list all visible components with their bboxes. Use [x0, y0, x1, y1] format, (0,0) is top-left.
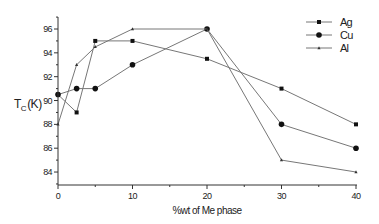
x-tick-label: 30: [277, 191, 286, 201]
y-axis-title: TC(K): [14, 97, 42, 113]
series-line-ag: [58, 41, 356, 125]
legend-marker: [317, 20, 321, 24]
data-point: [130, 62, 136, 68]
y-tick-label: 94: [43, 48, 52, 58]
y-tick-label: 96: [43, 24, 52, 34]
x-tick-label: 20: [203, 191, 212, 201]
series-line-cu: [58, 29, 356, 148]
data-point: [279, 122, 285, 128]
data-point: [354, 122, 358, 126]
data-point: [92, 86, 98, 92]
legend-marker: [316, 32, 322, 38]
series-al: [56, 27, 357, 173]
svg-text:TC(K): TC(K): [14, 97, 42, 113]
legend-label: Al: [340, 42, 349, 54]
y-tick-label: 88: [43, 119, 52, 129]
y-axis: 84868890929496: [43, 17, 58, 185]
legend-label: Cu: [340, 29, 353, 41]
data-point: [75, 110, 79, 114]
data-point: [74, 86, 80, 92]
x-tick-label: 10: [128, 191, 137, 201]
legend: AgCuAl: [306, 16, 353, 54]
x-axis: 010203040: [56, 185, 361, 201]
x-tick-label: 40: [352, 191, 361, 201]
x-axis-title: %wt of Me phase: [172, 205, 242, 216]
legend-item-al: Al: [306, 42, 349, 54]
data-point: [280, 87, 284, 91]
series-cu: [55, 26, 359, 151]
y-tick-label: 90: [43, 96, 52, 106]
tc-vs-me-phase-chart: 84868890929496 010203040 %wt of Me phase…: [0, 0, 379, 224]
data-point: [131, 39, 135, 43]
data-point: [93, 39, 97, 43]
y-tick-label: 92: [43, 72, 52, 82]
legend-item-cu: Cu: [306, 29, 353, 41]
y-axis-title-unit: (K): [27, 97, 42, 111]
data-point: [205, 57, 209, 61]
legend-item-ag: Ag: [306, 16, 353, 28]
y-tick-label: 86: [43, 143, 52, 153]
series-line-al: [58, 29, 356, 172]
y-tick-label: 84: [43, 167, 52, 177]
series-ag: [56, 39, 358, 126]
legend-label: Ag: [340, 16, 353, 28]
x-tick-label: 0: [56, 191, 61, 201]
y-axis-title-subscript: C: [21, 104, 27, 113]
data-point: [353, 145, 359, 151]
